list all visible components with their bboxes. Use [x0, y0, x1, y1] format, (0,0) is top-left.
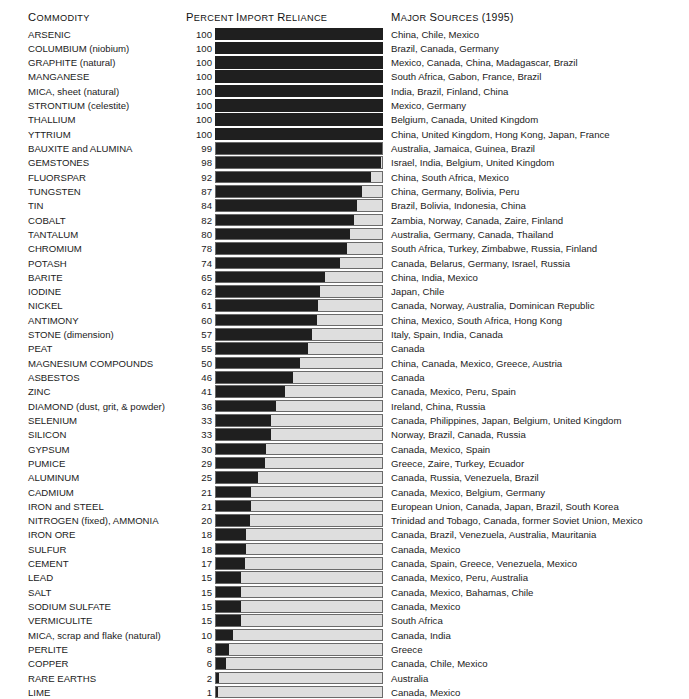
- major-sources: Canada, Mexico: [391, 686, 460, 699]
- reliance-bar: [215, 543, 383, 556]
- major-sources: China, Mexico, South Africa, Hong Kong: [391, 314, 562, 327]
- reliance-bar-fill: [216, 501, 251, 512]
- table-row: PEAT55Canada: [0, 342, 689, 356]
- table-row: IRON and STEEL21European Union, Canada, …: [0, 499, 689, 513]
- percent-value: 15: [160, 571, 212, 584]
- column-header-percent: PERCENT: [186, 11, 234, 24]
- percent-value: 21: [160, 486, 212, 499]
- reliance-bar: [215, 128, 383, 141]
- major-sources: China, United Kingdom, Hong Kong, Japan,…: [391, 128, 610, 141]
- major-sources: Mexico, Canada, China, Madagascar, Brazi…: [391, 56, 578, 69]
- major-sources: Israel, India, Belgium, United Kingdom: [391, 156, 554, 169]
- reliance-bar: [215, 486, 383, 499]
- commodity-name: SULFUR: [28, 543, 66, 556]
- reliance-bar-fill: [216, 229, 350, 240]
- reliance-bar-fill: [216, 272, 325, 283]
- reliance-bar: [215, 285, 383, 298]
- table-row: GYPSUM30Canada, Mexico, Spain: [0, 442, 689, 456]
- major-sources: Canada, Mexico, Bahamas, Chile: [391, 586, 533, 599]
- reliance-bar: [215, 214, 383, 227]
- reliance-bar-fill: [216, 529, 246, 540]
- commodity-name: IRON ORE: [28, 528, 75, 541]
- percent-value: 46: [160, 371, 212, 384]
- percent-value: 8: [160, 643, 212, 656]
- reliance-bar: [215, 400, 383, 413]
- table-row: PERLITE8Greece: [0, 642, 689, 656]
- table-row: ARSENIC100China, Chile, Mexico: [0, 27, 689, 41]
- major-sources: Trinidad and Tobago, Canada, former Sovi…: [391, 514, 643, 527]
- percent-value: 100: [160, 70, 212, 83]
- reliance-bar: [215, 242, 383, 255]
- major-sources: China, Canada, Mexico, Greece, Austria: [391, 357, 562, 370]
- percent-value: 100: [160, 56, 212, 69]
- commodity-name: LIME: [28, 686, 50, 699]
- commodity-name: ARSENIC: [28, 28, 71, 41]
- major-sources: Canada, Mexico: [391, 600, 460, 613]
- reliance-bar: [215, 586, 383, 599]
- commodity-name: MICA, scrap and flake (natural): [28, 629, 161, 642]
- table-row: PUMICE29Greece, Zaire, Turkey, Ecuador: [0, 456, 689, 470]
- reliance-bar-fill: [216, 673, 219, 684]
- reliance-bar-fill: [216, 86, 383, 97]
- table-row: LIME1Canada, Mexico: [0, 685, 689, 699]
- percent-value: 10: [160, 629, 212, 642]
- percent-value: 57: [160, 328, 212, 341]
- major-sources: Canada, Spain, Greece, Venezuela, Mexico: [391, 557, 577, 570]
- major-sources: Canada: [391, 342, 425, 355]
- major-sources: Canada, India: [391, 629, 451, 642]
- table-row: ASBESTOS46Canada: [0, 371, 689, 385]
- reliance-bar-fill: [216, 487, 251, 498]
- column-header-percent-rest: ERCENT: [194, 13, 234, 23]
- reliance-bar: [215, 299, 383, 312]
- reliance-bar: [215, 357, 383, 370]
- major-sources: Brazil, Bolivia, Indonesia, China: [391, 199, 526, 212]
- major-sources: Canada, Brazil, Venezuela, Australia, Ma…: [391, 528, 596, 541]
- table-header: COMMODITY PERCENT IMPORT RELIANCE MAJOR …: [0, 11, 689, 25]
- percent-value: 18: [160, 528, 212, 541]
- commodity-name: IODINE: [28, 285, 61, 298]
- table-row: TUNGSTEN87China, Germany, Bolivia, Peru: [0, 184, 689, 198]
- table-row: SULFUR18Canada, Mexico: [0, 542, 689, 556]
- reliance-bar-fill: [216, 429, 271, 440]
- reliance-bar-fill: [216, 329, 312, 340]
- reliance-bar-fill: [216, 358, 300, 369]
- commodity-name: PEAT: [28, 342, 52, 355]
- reliance-bar: [215, 314, 383, 327]
- reliance-bar-fill: [216, 472, 258, 483]
- commodity-name: YTTRIUM: [28, 128, 71, 141]
- commodity-name: ASBESTOS: [28, 371, 80, 384]
- table-row: RARE EARTHS2Australia: [0, 671, 689, 685]
- major-sources: Zambia, Norway, Canada, Zaire, Finland: [391, 214, 563, 227]
- reliance-bar-fill: [216, 601, 241, 612]
- percent-value: 33: [160, 414, 212, 427]
- commodity-name: VERMICULITE: [28, 614, 93, 627]
- percent-value: 74: [160, 257, 212, 270]
- commodity-name: SILICON: [28, 428, 66, 441]
- reliance-bar-fill: [216, 515, 250, 526]
- table-row: ANTIMONY60China, Mexico, South Africa, H…: [0, 313, 689, 327]
- reliance-bar: [215, 686, 383, 699]
- commodity-name: RARE EARTHS: [28, 672, 96, 685]
- reliance-bar: [215, 443, 383, 456]
- major-sources: Ireland, China, Russia: [391, 400, 485, 413]
- table-row: IRON ORE18Canada, Brazil, Venezuela, Aus…: [0, 528, 689, 542]
- reliance-bar: [215, 228, 383, 241]
- major-sources: China, Chile, Mexico: [391, 28, 479, 41]
- table-row: COBALT82Zambia, Norway, Canada, Zaire, F…: [0, 213, 689, 227]
- reliance-bar: [215, 428, 383, 441]
- reliance-bar-fill: [216, 630, 233, 641]
- reliance-bar-fill: [216, 544, 246, 555]
- percent-value: 78: [160, 242, 212, 255]
- reliance-bar: [215, 385, 383, 398]
- major-sources: European Union, Canada, Japan, Brazil, S…: [391, 500, 619, 513]
- major-sources: Canada: [391, 371, 425, 384]
- reliance-bar-fill: [216, 71, 383, 82]
- major-sources: Australia, Germany, Canada, Thailand: [391, 228, 553, 241]
- percent-value: 100: [160, 128, 212, 141]
- major-sources: Greece: [391, 643, 422, 656]
- percent-value: 15: [160, 614, 212, 627]
- percent-value: 25: [160, 471, 212, 484]
- table-row: COPPER6Canada, Chile, Mexico: [0, 657, 689, 671]
- percent-value: 29: [160, 457, 212, 470]
- percent-value: 82: [160, 214, 212, 227]
